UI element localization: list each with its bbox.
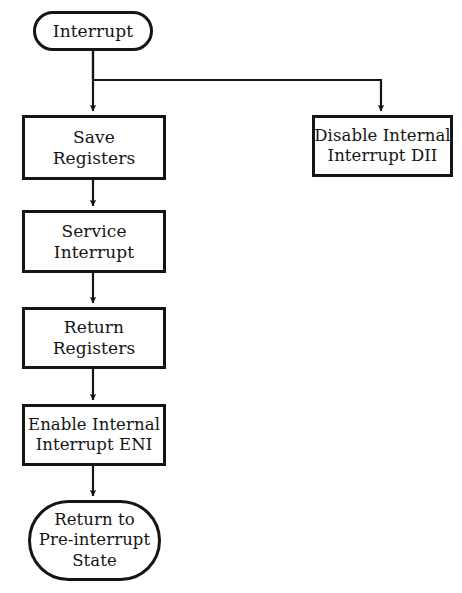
node-disable-internal-interrupt-line1: Disable Internal bbox=[314, 126, 450, 146]
node-interrupt-start: Interrupt bbox=[33, 11, 153, 51]
node-disable-internal-interrupt-line2: Interrupt DII bbox=[314, 146, 450, 166]
node-return-registers-line2: Registers bbox=[53, 338, 136, 359]
node-return-to-pre-interrupt-state-line3: State bbox=[39, 551, 151, 571]
node-service-interrupt: Service Interrupt bbox=[22, 210, 166, 273]
node-save-registers-line2: Registers bbox=[53, 148, 136, 169]
node-save-registers-line1: Save bbox=[53, 127, 136, 148]
node-enable-internal-interrupt: Enable Internal Interrupt ENI bbox=[22, 404, 166, 466]
node-enable-internal-interrupt-line1: Enable Internal bbox=[28, 415, 160, 435]
edge-start-to-disable bbox=[93, 50, 381, 111]
node-disable-internal-interrupt: Disable Internal Interrupt DII bbox=[312, 115, 453, 177]
node-return-to-pre-interrupt-state: Return to Pre-interrupt State bbox=[28, 500, 161, 581]
node-service-interrupt-line1: Service bbox=[54, 221, 134, 242]
node-return-registers-line1: Return bbox=[53, 317, 136, 338]
node-interrupt-start-line1: Interrupt bbox=[53, 21, 133, 42]
node-return-to-pre-interrupt-state-line2: Pre-interrupt bbox=[39, 530, 151, 550]
node-service-interrupt-line2: Interrupt bbox=[54, 242, 134, 263]
node-return-to-pre-interrupt-state-line1: Return to bbox=[39, 510, 151, 530]
node-enable-internal-interrupt-line2: Interrupt ENI bbox=[28, 435, 160, 455]
node-return-registers: Return Registers bbox=[22, 307, 166, 369]
flowchart-canvas: Interrupt Disable Internal Interrupt DII… bbox=[0, 0, 462, 593]
node-save-registers: Save Registers bbox=[22, 115, 166, 180]
